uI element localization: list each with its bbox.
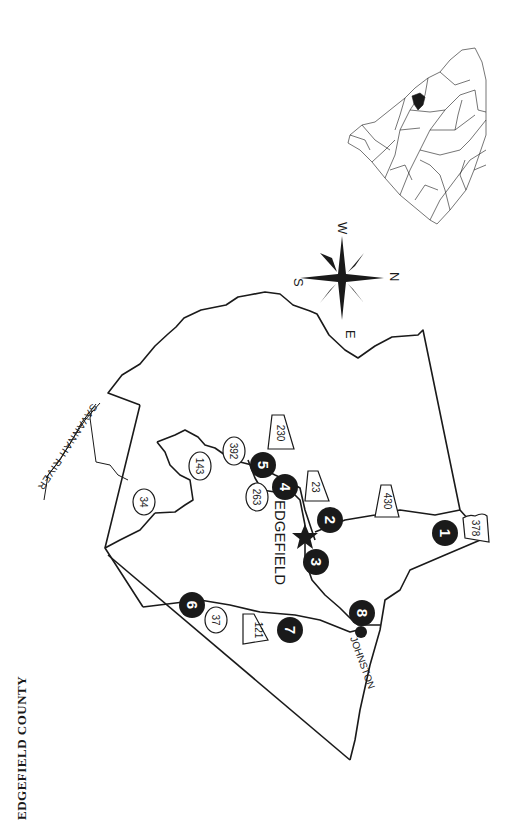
site-3[interactable]: 3 xyxy=(303,549,329,575)
site-2[interactable]: 2 xyxy=(317,507,343,533)
route-23: 23 xyxy=(305,471,329,501)
svg-text:121: 121 xyxy=(253,622,264,639)
svg-text:1: 1 xyxy=(437,529,454,537)
svg-text:2: 2 xyxy=(322,516,339,524)
road xyxy=(155,442,193,513)
route-230: 230 xyxy=(268,415,294,449)
label-edgefield: EDGEFIELD xyxy=(272,500,289,585)
route-263: 263 xyxy=(246,483,268,511)
svg-text:392: 392 xyxy=(228,443,239,460)
svg-text:430: 430 xyxy=(382,493,393,510)
compass-s-label: S xyxy=(291,278,306,287)
route-121: 121 xyxy=(243,614,268,644)
map-title: EDGEFIELD COUNTY xyxy=(14,676,30,820)
svg-text:263: 263 xyxy=(251,489,262,506)
route-us-378: 378 xyxy=(463,514,489,542)
county-border xyxy=(105,292,485,760)
county-map: W N S E 34 143 392 263 37 230 23 430 121… xyxy=(0,0,523,828)
svg-text:8: 8 xyxy=(354,609,371,617)
svg-text:230: 230 xyxy=(275,425,286,442)
site-4[interactable]: 4 xyxy=(272,474,298,500)
compass-n-label: N xyxy=(387,272,402,281)
svg-text:143: 143 xyxy=(194,458,205,475)
compass-e-label: E xyxy=(343,330,358,339)
route-430: 430 xyxy=(375,485,399,517)
svg-text:37: 37 xyxy=(210,614,221,626)
site-8[interactable]: 8 xyxy=(349,600,375,626)
site-1[interactable]: 1 xyxy=(432,520,458,546)
site-6[interactable]: 6 xyxy=(179,592,205,618)
inset-state-map xyxy=(348,48,486,224)
svg-text:4: 4 xyxy=(277,483,294,492)
svg-text:5: 5 xyxy=(255,461,272,469)
route-37: 37 xyxy=(205,607,227,633)
svg-text:23: 23 xyxy=(310,481,321,493)
svg-text:34: 34 xyxy=(138,496,149,508)
compass-rose xyxy=(300,236,384,320)
svg-text:378: 378 xyxy=(470,520,481,537)
route-34: 34 xyxy=(133,489,155,515)
edgefield-highlight xyxy=(412,93,425,110)
route-143: 143 xyxy=(189,452,211,480)
border-southwest xyxy=(108,555,350,760)
label-savannah-river: SAVANNAH RIVER xyxy=(35,402,99,493)
svg-text:3: 3 xyxy=(308,558,325,566)
svg-text:6: 6 xyxy=(184,601,201,609)
site-7[interactable]: 7 xyxy=(277,617,303,643)
compass-w-label: W xyxy=(335,222,350,235)
svg-text:7: 7 xyxy=(282,626,299,634)
label-johnston: JOHNSTON xyxy=(348,635,377,690)
route-392: 392 xyxy=(223,437,245,465)
site-5[interactable]: 5 xyxy=(250,452,276,478)
